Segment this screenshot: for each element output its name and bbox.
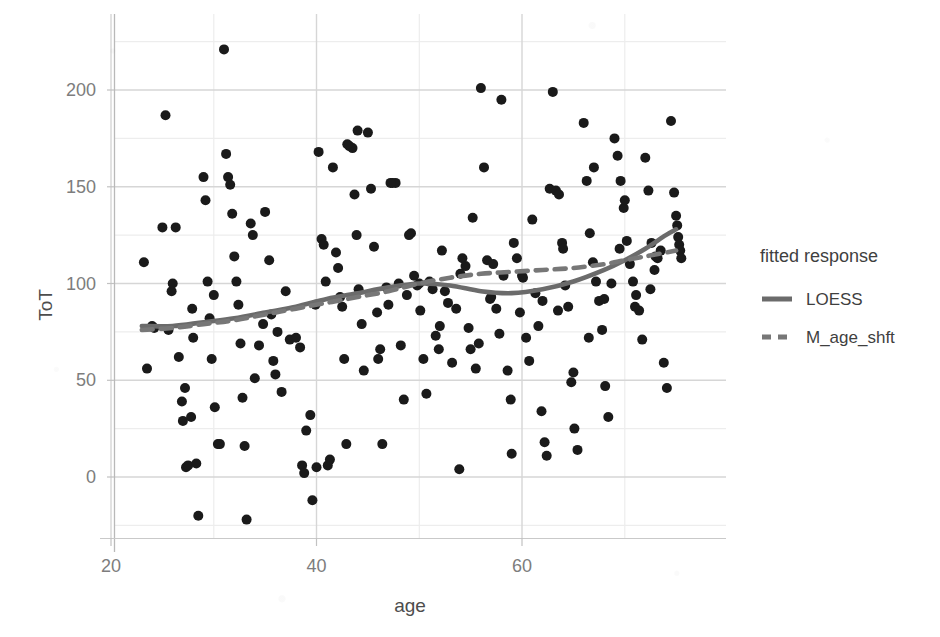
data-point <box>676 253 686 263</box>
data-point <box>337 302 347 312</box>
data-point <box>180 383 190 393</box>
data-point <box>666 116 676 126</box>
data-point <box>630 302 640 312</box>
data-point <box>277 387 287 397</box>
legend-entry-m-age-shft[interactable]: M_age_shft <box>762 328 895 347</box>
data-point <box>650 265 660 275</box>
data-point <box>440 286 450 296</box>
data-point <box>366 184 376 194</box>
data-point <box>415 306 425 316</box>
data-point <box>466 344 476 354</box>
data-point <box>597 325 607 335</box>
data-point <box>610 133 620 143</box>
data-point <box>369 242 379 252</box>
data-point <box>631 290 641 300</box>
data-point <box>333 263 343 273</box>
data-point <box>622 236 632 246</box>
data-point <box>201 195 211 205</box>
data-point <box>210 402 220 412</box>
data-point <box>603 412 613 422</box>
data-point <box>314 147 324 157</box>
data-point <box>540 437 550 447</box>
data-point <box>563 302 573 312</box>
data-point <box>377 439 387 449</box>
data-point <box>350 190 360 200</box>
data-point <box>399 395 409 405</box>
data-point <box>295 342 305 352</box>
data-point <box>554 190 564 200</box>
x-tick-label: 40 <box>306 556 326 576</box>
data-point <box>187 304 197 314</box>
data-point <box>238 393 248 403</box>
data-point <box>548 87 558 97</box>
data-point <box>569 424 579 434</box>
data-point <box>168 279 178 289</box>
data-point <box>357 319 367 329</box>
data-point <box>231 277 241 287</box>
data-point <box>431 331 441 341</box>
x-axis-title: age <box>394 595 426 616</box>
data-point <box>215 439 225 449</box>
data-point <box>628 277 638 287</box>
data-point <box>434 344 444 354</box>
data-point <box>496 95 506 105</box>
x-tick-label: 60 <box>512 556 532 576</box>
legend: fitted response LOESS M_age_shft <box>760 246 895 347</box>
data-point <box>558 244 568 254</box>
data-point <box>268 356 278 366</box>
data-point <box>479 162 489 172</box>
data-point <box>468 213 478 223</box>
data-point <box>404 230 414 240</box>
data-point <box>512 253 522 263</box>
data-point <box>270 369 280 379</box>
data-point <box>615 244 625 254</box>
data-point <box>325 455 335 465</box>
data-point <box>193 511 203 521</box>
data-point <box>157 222 167 232</box>
data-point <box>447 358 457 368</box>
data-point <box>307 495 317 505</box>
data-point <box>203 277 213 287</box>
x-tick-labels: 204060 <box>101 556 532 576</box>
y-tick-label: 0 <box>86 467 96 487</box>
y-axis-title: ToT <box>35 289 56 321</box>
data-point <box>386 178 396 188</box>
y-tick-labels: 050100150200 <box>66 80 96 487</box>
data-point <box>188 333 198 343</box>
y-tick-label: 50 <box>76 370 96 390</box>
data-point <box>542 451 552 461</box>
data-point <box>174 352 184 362</box>
legend-title: fitted response <box>760 246 878 266</box>
data-point <box>199 172 209 182</box>
data-point <box>643 186 653 196</box>
data-point <box>342 139 352 149</box>
data-point <box>589 162 599 172</box>
data-point <box>321 277 331 287</box>
data-point <box>142 364 152 374</box>
data-point <box>328 162 338 172</box>
legend-label-loess: LOESS <box>806 290 863 309</box>
y-tick-label: 100 <box>66 274 96 294</box>
data-point <box>305 410 315 420</box>
data-point <box>613 151 623 161</box>
scatter-plot: 050100150200 204060 ToT age fitted respo… <box>0 0 940 637</box>
data-point <box>375 344 385 354</box>
data-point <box>582 176 592 186</box>
data-point <box>443 298 453 308</box>
data-point <box>507 449 517 459</box>
legend-entry-loess[interactable]: LOESS <box>762 290 863 309</box>
data-point <box>233 300 243 310</box>
data-point <box>301 426 311 436</box>
data-point <box>339 354 349 364</box>
data-point <box>207 354 217 364</box>
data-point <box>471 364 481 374</box>
data-point <box>281 286 291 296</box>
data-point <box>273 327 283 337</box>
data-point <box>585 228 595 238</box>
data-point <box>225 180 235 190</box>
data-point <box>396 340 406 350</box>
data-point <box>229 251 239 261</box>
plot-panel-background <box>114 14 726 538</box>
data-point <box>191 459 201 469</box>
x-tick-label: 20 <box>101 556 121 576</box>
